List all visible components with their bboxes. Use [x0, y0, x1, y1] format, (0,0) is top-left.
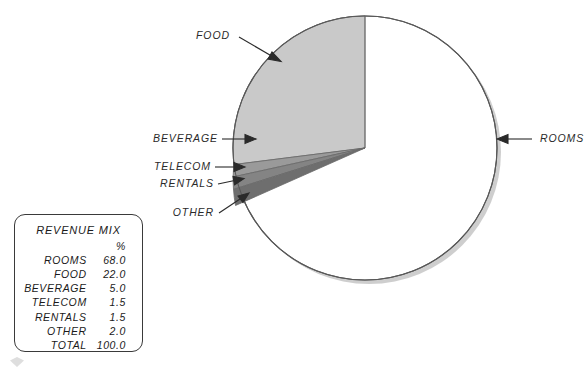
callout-label-food: FOOD — [196, 29, 230, 41]
legend-row-rentals: RENTALS 1.5 — [15, 310, 142, 324]
legend-value-food: 22.0 — [94, 267, 142, 281]
legend-label-rooms: ROOMS — [15, 253, 94, 267]
legend-table: % ROOMS 68.0 FOOD 22.0 BEVERAGE 5.0 TELE… — [15, 239, 142, 353]
legend-label-beverage: BEVERAGE — [15, 282, 94, 296]
legend-unit-spacer — [15, 239, 94, 253]
legend-value-rentals: 1.5 — [94, 310, 142, 324]
legend-value-telecom: 1.5 — [94, 296, 142, 310]
legend-title: REVENUE MIX — [15, 224, 142, 236]
callout-label-telecom: TELECOM — [126, 160, 211, 172]
legend-value-rooms: 68.0 — [94, 253, 142, 267]
callout-label-beverage: BEVERAGE — [126, 132, 218, 144]
food-slice — [233, 16, 365, 173]
legend-row-beverage: BEVERAGE 5.0 — [15, 282, 142, 296]
legend-unit-header: % — [94, 239, 142, 253]
legend-row-food: FOOD 22.0 — [15, 267, 142, 281]
callout-label-rooms: ROOMS — [540, 132, 584, 144]
legend-value-beverage: 5.0 — [94, 282, 142, 296]
scan-artifact-text — [8, 356, 428, 368]
legend-value-other: 2.0 — [94, 324, 142, 338]
legend-label-other: OTHER — [15, 324, 94, 338]
legend-label-telecom: TELECOM — [15, 296, 94, 310]
legend-row-rooms: ROOMS 68.0 — [15, 253, 142, 267]
legend-value-total: 100.0 — [94, 338, 142, 352]
legend-label-rentals: RENTALS — [15, 310, 94, 324]
legend-unit-row: % — [15, 239, 142, 253]
callout-label-rentals: RENTALS — [126, 177, 214, 189]
revenue-mix-legend: REVENUE MIX % ROOMS 68.0 FOOD 22.0 BEVER… — [14, 214, 143, 352]
legend-row-telecom: TELECOM 1.5 — [15, 296, 142, 310]
legend-label-food: FOOD — [15, 267, 94, 281]
legend-label-total: TOTAL — [15, 338, 94, 352]
legend-row-total: TOTAL 100.0 — [15, 338, 142, 352]
legend-row-other: OTHER 2.0 — [15, 324, 142, 338]
